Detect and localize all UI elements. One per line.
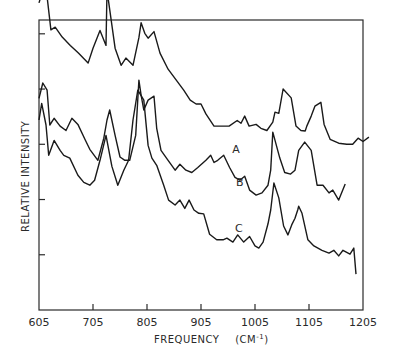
x-axis-unit-sup: -1 <box>256 333 264 341</box>
series-labels: ABC <box>232 143 243 235</box>
series-line-c <box>39 90 356 274</box>
series-line-a <box>39 0 369 144</box>
x-axis-unit-close: ) <box>264 334 268 345</box>
x-tick-label: 705 <box>83 316 104 329</box>
series-label-b: B <box>236 176 244 189</box>
x-tick-label: 1105 <box>295 316 323 329</box>
x-axis: 605705805905100511051205 <box>29 304 378 329</box>
series-group <box>39 0 369 274</box>
x-axis-unit: (CM-1) <box>235 333 268 345</box>
x-axis-title-text: FREQUENCY <box>154 334 220 345</box>
x-tick-label: 905 <box>191 316 212 329</box>
y-axis-title: RELATIVE INTENSITY <box>20 120 31 232</box>
series-label-c: C <box>235 222 243 235</box>
x-tick-label: 1005 <box>241 316 269 329</box>
x-axis-title: FREQUENCY (CM-1) <box>154 333 269 345</box>
x-tick-label: 1205 <box>349 316 377 329</box>
x-axis-unit-open: (CM <box>235 334 256 345</box>
x-tick-label: 605 <box>29 316 50 329</box>
x-tick-label: 805 <box>137 316 158 329</box>
series-line-b <box>39 80 345 200</box>
series-label-a: A <box>232 143 240 156</box>
y-axis <box>39 34 45 255</box>
spectrum-chart: 605705805905100511051205 ABC FREQUENCY (… <box>0 0 400 360</box>
